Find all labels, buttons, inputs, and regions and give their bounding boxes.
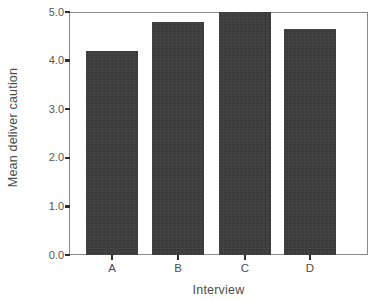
bar-c <box>219 12 271 255</box>
x-tick-label: A <box>92 263 132 275</box>
x-tick-mark <box>244 255 246 260</box>
bar-a <box>86 51 138 255</box>
x-tick-label: B <box>158 263 198 275</box>
y-tick-label: 3.0 <box>20 104 64 115</box>
x-tick-label: D <box>290 263 330 275</box>
y-axis-title: Mean deliver caution <box>2 0 24 255</box>
y-tick-label: 2.0 <box>20 152 64 163</box>
x-axis-title: Interview <box>69 283 368 297</box>
y-tick-mark <box>65 205 70 207</box>
x-tick-mark <box>111 255 113 260</box>
plot-area <box>69 12 368 255</box>
y-tick-mark <box>65 11 70 13</box>
y-tick-mark <box>65 254 70 256</box>
y-tick-mark <box>65 108 70 110</box>
bar-b <box>152 22 204 255</box>
y-tick-label: 5.0 <box>20 7 64 18</box>
y-tick-label: 1.0 <box>20 201 64 212</box>
y-tick-mark <box>65 59 70 61</box>
x-tick-mark <box>177 255 179 260</box>
x-tick-mark <box>309 255 311 260</box>
y-tick-mark <box>65 157 70 159</box>
bar-d <box>284 29 336 255</box>
bar-chart-figure: Mean deliver caution 0.01.02.03.04.05.0 … <box>0 0 380 301</box>
y-tick-label: 0.0 <box>20 250 64 261</box>
x-tick-label: C <box>225 263 265 275</box>
y-tick-label: 4.0 <box>20 55 64 66</box>
